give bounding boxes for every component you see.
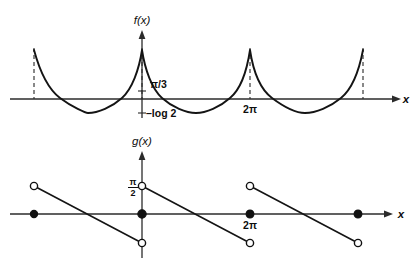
- pi-over-2-label: π 2: [128, 177, 138, 198]
- lower-panel: π 2 2π g(x) x: [10, 135, 405, 258]
- closed-point-two-pi: [246, 210, 254, 218]
- closed-point-minus-two-pi: [30, 210, 37, 217]
- upper-two-pi-label: 2π: [243, 103, 257, 115]
- closed-point-four-pi: [354, 210, 362, 218]
- upper-x-axis-arrow-icon: [392, 96, 401, 103]
- closed-point-origin: [138, 210, 146, 218]
- lower-y-axis-arrow-icon: [139, 151, 146, 160]
- open-point-2-bottom: [246, 239, 253, 246]
- math-figure: π/3 –log 2 2π f(x) x: [0, 0, 418, 276]
- upper-y-axis-arrow-icon: [139, 30, 146, 39]
- upper-panel: π/3 –log 2 2π f(x) x: [10, 14, 410, 119]
- open-point-left-top: [30, 182, 37, 189]
- open-point-3-bottom: [354, 239, 361, 246]
- lower-x-axis-arrow-icon: [384, 211, 393, 218]
- lower-two-pi-label: 2π: [243, 219, 257, 231]
- pi-over-2-numerator: π: [130, 177, 137, 187]
- f-curve: [34, 50, 363, 113]
- pi-over-2-denominator: 2: [130, 188, 135, 198]
- open-point-3-top: [246, 182, 253, 189]
- figure-canvas: π/3 –log 2 2π f(x) x: [0, 0, 418, 276]
- neg-log-2-label: –log 2: [146, 107, 177, 119]
- open-point-1-bottom: [138, 239, 145, 246]
- lower-y-axis-label: g(x): [132, 135, 152, 147]
- pi-over-3-label: π/3: [150, 78, 167, 90]
- upper-x-axis-label: x: [402, 93, 410, 105]
- upper-y-axis-label: f(x): [134, 14, 151, 26]
- lower-x-axis-label: x: [397, 208, 405, 220]
- open-point-2-top: [138, 182, 145, 189]
